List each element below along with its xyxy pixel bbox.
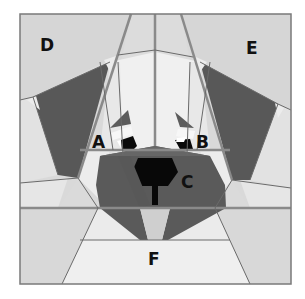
section-label-b: B — [196, 134, 209, 151]
section-label-c: C — [181, 174, 193, 191]
quilt-block-diagram: D E A B C F — [0, 0, 305, 299]
nose-stem — [152, 186, 158, 205]
section-label-e: E — [246, 40, 258, 57]
section-label-a: A — [92, 134, 105, 151]
section-label-f: F — [148, 251, 160, 268]
section-label-d: D — [40, 37, 54, 54]
